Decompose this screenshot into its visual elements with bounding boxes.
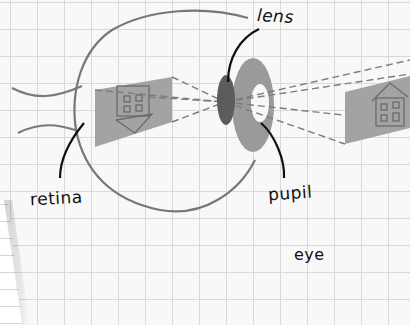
optic-nerve-lower bbox=[18, 125, 78, 133]
label-lens: lens bbox=[257, 5, 295, 27]
lens-shape bbox=[217, 75, 235, 125]
object-image bbox=[345, 76, 410, 144]
retina-pointer bbox=[60, 123, 84, 178]
diagram-caption: eye bbox=[294, 245, 325, 264]
label-retina: retina bbox=[30, 187, 84, 210]
label-pupil: pupil bbox=[267, 181, 313, 204]
eye-diagram bbox=[0, 0, 410, 325]
optic-nerve-upper bbox=[12, 86, 82, 96]
pupil-opening bbox=[251, 84, 269, 122]
retina-image bbox=[95, 77, 172, 147]
